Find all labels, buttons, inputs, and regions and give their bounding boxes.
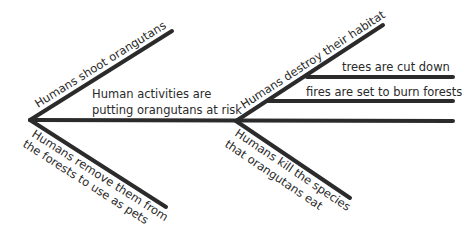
sub-branch-label-fires: fires are set to burn forests [306, 85, 462, 99]
branch-label-species-line1: Humans kill the species [232, 126, 353, 214]
orangutan-risk-diagram: Human activities are putting orangutans … [0, 0, 476, 236]
root-label-line1: Human activities are [92, 87, 211, 101]
main-trunk-line [30, 120, 453, 121]
branch-label-pets-line2: the forests to use as pets [20, 137, 151, 227]
root-label-line2: putting orangutans at risk [92, 103, 242, 117]
branch-label-pets-line1: Humans remove them from [29, 127, 171, 224]
sub-branch-label-trees: trees are cut down [342, 60, 450, 74]
